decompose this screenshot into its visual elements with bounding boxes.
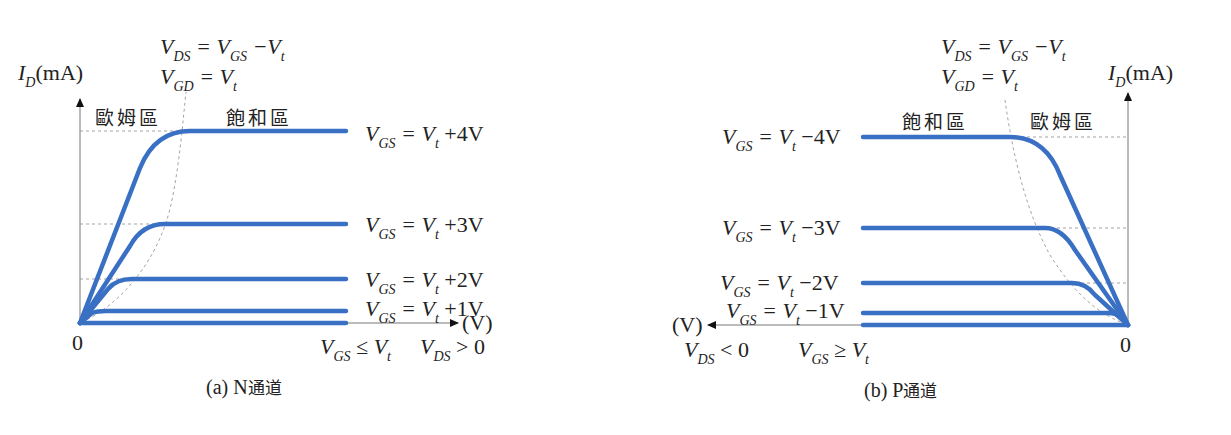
n-curve-vt-plus-2: [80, 279, 346, 323]
p-curves: [863, 137, 1128, 325]
n-vds-condition: VDS > 0: [420, 336, 485, 358]
p-cutoff-label: VGS ≥ Vt: [798, 339, 869, 361]
n-level-guides: [80, 131, 180, 279]
n-origin-label: 0: [72, 330, 83, 356]
n-curve-vt-plus-3: [80, 224, 346, 323]
p-x-axis-unit: (V): [672, 314, 703, 336]
p-y-axis-label: ID(mA): [1108, 62, 1173, 84]
p-region-ohmic: 歐姆區: [1030, 107, 1096, 134]
p-caption: (b) P通道: [864, 377, 937, 402]
n-caption: (a) N通道: [206, 374, 282, 399]
p-boundary-eq2: VGD = Vt: [941, 66, 1018, 88]
p-level-guides: [1015, 137, 1128, 283]
n-curve-label-4: VGS = Vt +4V: [365, 123, 484, 145]
n-boundary-eq1: VDS = VGS −Vt: [160, 36, 285, 58]
n-region-saturation: 飽和區: [226, 103, 292, 130]
p-boundary-eq1: VDS = VGS −Vt: [941, 36, 1066, 58]
n-curve-label-2: VGS = Vt +2V: [365, 269, 484, 291]
n-cutoff-label: VGS ≤ Vt: [320, 336, 391, 358]
p-origin-label: 0: [1120, 332, 1131, 358]
p-vds-condition: VDS < 0: [684, 339, 749, 361]
n-curve-vt-plus-4: [80, 131, 346, 323]
n-boundary-eq2: VGD = Vt: [160, 66, 237, 88]
n-region-ohmic: 歐姆區: [95, 103, 161, 130]
p-region-saturation: 飽和區: [902, 107, 968, 134]
n-curves: [80, 131, 346, 323]
p-curve-label-3: VGS = Vt −3V: [722, 217, 841, 239]
p-curve-vt-minus-2: [863, 283, 1128, 325]
n-x-axis-unit: (V): [462, 312, 493, 334]
p-curve-label-1: VGS = Vt −1V: [726, 300, 845, 322]
p-curve-vt-minus-4: [863, 137, 1128, 325]
n-y-axis-label: ID(mA): [18, 62, 83, 84]
p-curve-label-4: VGS = Vt −4V: [722, 126, 841, 148]
p-curve-label-2: VGS = Vt −2V: [720, 272, 839, 294]
n-curve-label-3: VGS = Vt +3V: [365, 214, 484, 236]
